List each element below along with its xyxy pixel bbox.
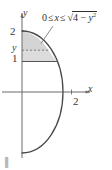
annotation-radicand: 4 − y2 <box>72 11 97 23</box>
y-tick-label-2: 2 <box>10 26 16 37</box>
inequality-annotation: 0≤x≤√4 − y2 <box>42 12 97 23</box>
annotation-radical: √4 − y2 <box>66 12 97 23</box>
x-tick-label-2: 2 <box>73 96 79 107</box>
annotation-leader-line <box>41 26 53 44</box>
annotation-rel-2: ≤ <box>59 12 67 23</box>
radicand-lead: 4 − <box>73 12 89 23</box>
y-axis-label: y <box>23 8 27 18</box>
x-axis-label: x <box>88 84 92 94</box>
annotation-rel-1: ≤ <box>47 12 55 23</box>
figure-container: 0≤x≤√4 − y2 y 2 y 1 x 2 ▌ <box>0 0 112 170</box>
radicand-exponent: 2 <box>93 12 96 18</box>
page-edge-artifact: ▌ <box>5 157 11 167</box>
semicircle-figure-graphic <box>0 0 112 170</box>
y-tick-label-1: 1 <box>12 53 18 64</box>
